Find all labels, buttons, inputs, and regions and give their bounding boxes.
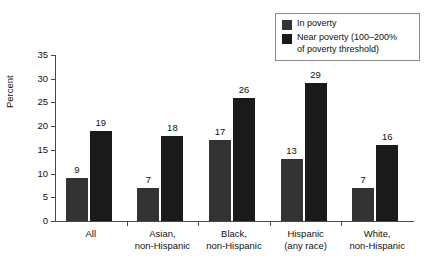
y-axis-tick-mark — [51, 55, 55, 56]
poverty-bar-chart: In poverty Near poverty (100–200% of pov… — [0, 0, 425, 266]
bar-value-label: 7 — [361, 175, 366, 185]
bar — [376, 145, 398, 221]
x-axis-category-label: Asian, non-Hispanic — [127, 228, 199, 252]
y-axis-tick-mark — [51, 102, 55, 103]
y-axis-tick-mark — [51, 126, 55, 127]
legend-swatch-near-poverty — [282, 34, 292, 44]
bar — [66, 178, 88, 221]
x-axis-category-label: Hispanic (any race) — [270, 228, 342, 252]
x-axis-line — [55, 221, 414, 222]
y-axis-tick-label: 30 — [8, 74, 48, 84]
y-axis-tick-label: 5 — [8, 192, 48, 202]
bar-value-label: 26 — [239, 85, 250, 95]
y-axis-tick-label: 0 — [8, 216, 48, 226]
y-axis-line — [55, 55, 56, 222]
x-axis-tick-mark — [198, 222, 199, 226]
bar — [233, 98, 255, 221]
y-axis-tick-label: 15 — [8, 145, 48, 155]
bar — [90, 131, 112, 221]
bar-value-label: 19 — [96, 118, 107, 128]
bar — [281, 159, 303, 221]
y-axis-tick-label: 20 — [8, 121, 48, 131]
y-axis-tick-label: 35 — [8, 50, 48, 60]
bar-value-label: 13 — [286, 146, 297, 156]
bar-value-label: 9 — [74, 165, 79, 175]
chart-legend: In poverty Near poverty (100–200% of pov… — [275, 13, 420, 61]
x-axis-category-label: Black, non-Hispanic — [198, 228, 270, 252]
y-axis-tick-mark — [51, 150, 55, 151]
x-axis-category-label: All — [55, 228, 127, 240]
bar-value-label: 18 — [167, 123, 178, 133]
x-axis-category-label: White, non-Hispanic — [341, 228, 413, 252]
x-axis-tick-mark — [270, 222, 271, 226]
legend-label-near-poverty: Near poverty (100–200% of poverty thresh… — [297, 32, 397, 55]
legend-item-in-poverty: In poverty — [282, 18, 414, 30]
y-axis-tick-mark — [51, 174, 55, 175]
bar — [305, 83, 327, 221]
y-axis-tick-mark — [51, 197, 55, 198]
bar — [161, 136, 183, 221]
bar — [209, 140, 231, 221]
y-axis-tick-mark — [51, 79, 55, 80]
y-axis-tick-label: 25 — [8, 97, 48, 107]
bar-value-label: 16 — [382, 132, 393, 142]
x-axis-tick-mark — [341, 222, 342, 226]
x-axis-tick-mark — [127, 222, 128, 226]
y-axis-tick-mark — [51, 221, 55, 222]
bar — [352, 188, 374, 221]
bar-value-label: 7 — [146, 175, 151, 185]
bar — [137, 188, 159, 221]
y-axis-tick-label: 10 — [8, 169, 48, 179]
bar-value-label: 29 — [310, 70, 321, 80]
legend-swatch-in-poverty — [282, 20, 292, 30]
legend-label-in-poverty: In poverty — [297, 18, 337, 30]
legend-item-near-poverty: Near poverty (100–200% of poverty thresh… — [282, 32, 414, 55]
bar-value-label: 17 — [215, 127, 226, 137]
